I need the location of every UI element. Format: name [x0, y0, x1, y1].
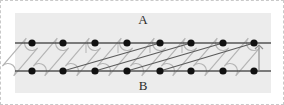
node-top-7: [250, 39, 257, 46]
node-bottom-4: [156, 67, 163, 74]
node-bottom-7: [250, 67, 257, 74]
node-top-5: [187, 39, 194, 46]
braid-diagram-figure: A B: [0, 0, 284, 105]
label-b: B: [139, 78, 148, 93]
node-top-1: [59, 39, 66, 46]
node-bottom-2: [91, 67, 98, 74]
node-top-0: [28, 39, 35, 46]
node-top-3: [123, 39, 130, 46]
label-a: A: [138, 12, 148, 27]
node-bottom-1: [59, 67, 66, 74]
node-top-6: [219, 39, 226, 46]
node-top-4: [156, 39, 163, 46]
node-bottom-3: [123, 67, 130, 74]
braid-diagram-canvas: A B: [1, 1, 284, 105]
node-bottom-5: [187, 67, 194, 74]
node-top-2: [91, 39, 98, 46]
node-bottom-6: [219, 67, 226, 74]
node-bottom-0: [28, 67, 35, 74]
